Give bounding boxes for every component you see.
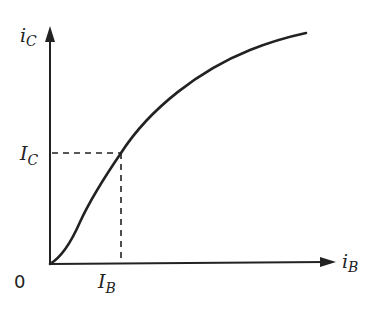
- y-axis-arrow-icon: [45, 26, 55, 42]
- origin-label: 0: [14, 271, 25, 292]
- characteristic-curve: [50, 33, 306, 264]
- ic-label: IC: [19, 142, 39, 168]
- y-axis-label: iC: [20, 24, 37, 49]
- x-axis-label: iB: [342, 250, 358, 275]
- ib-label: IB: [97, 270, 116, 296]
- characteristic-diagram: iC iB 0 IC IB: [0, 0, 377, 309]
- x-axis: [50, 262, 326, 264]
- x-axis-arrow-icon: [320, 257, 336, 267]
